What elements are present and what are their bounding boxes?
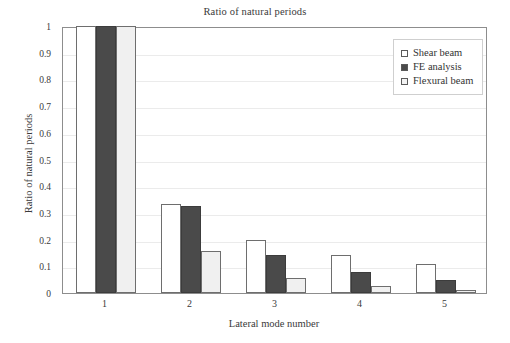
- bar-1-series-0: [76, 26, 96, 293]
- bar-3-series-1: [266, 255, 286, 293]
- y-axis-tick: 0.3: [39, 209, 51, 219]
- x-axis-tick: 3: [272, 298, 277, 309]
- bar-3-series-2: [286, 278, 306, 293]
- bar-5-series-1: [436, 280, 456, 293]
- legend-label: Flexural beam: [413, 74, 473, 88]
- bar-1-series-1: [96, 26, 116, 293]
- y-axis-tick: 0.4: [39, 182, 51, 192]
- legend-item-0: Shear beam: [401, 46, 473, 60]
- chart-legend: Shear beamFE analysisFlexural beam: [393, 39, 483, 95]
- y-axis-tick: 0.9: [39, 49, 51, 59]
- legend-item-2: Flexural beam: [401, 74, 473, 88]
- y-axis-tick: 0.8: [39, 75, 51, 85]
- filled-square-dark-icon: [401, 64, 408, 71]
- chart-container: Ratio of natural periods Ratio of natura…: [0, 0, 510, 343]
- x-axis-tick: 2: [187, 298, 192, 309]
- y-axis-tick: 0.1: [39, 262, 51, 272]
- x-axis-tick: 5: [442, 298, 447, 309]
- bar-5-series-0: [416, 264, 436, 293]
- bar-2-series-2: [201, 251, 221, 293]
- y-axis-tick: 1: [46, 22, 51, 32]
- bar-4-series-0: [331, 255, 351, 293]
- bar-4-series-2: [371, 286, 391, 293]
- open-square-light-icon: [401, 78, 408, 85]
- bar-2-series-0: [161, 204, 181, 293]
- x-axis-label: Lateral mode number: [60, 318, 488, 329]
- y-axis-tick-labels: 00.10.20.30.40.50.60.70.80.91: [0, 27, 57, 294]
- y-axis-tick: 0.6: [39, 129, 51, 139]
- x-axis-tick-labels: 12345: [62, 298, 487, 314]
- open-square-white-icon: [401, 50, 408, 57]
- bar-3-series-0: [246, 240, 266, 293]
- y-axis-tick: 0.2: [39, 236, 51, 246]
- x-axis-tick: 4: [357, 298, 362, 309]
- bar-5-series-2: [456, 290, 476, 293]
- bar-4-series-1: [351, 272, 371, 293]
- y-axis-tick: 0.5: [39, 156, 51, 166]
- bar-2-series-1: [181, 206, 201, 293]
- legend-item-1: FE analysis: [401, 60, 473, 74]
- bar-1-series-2: [116, 26, 136, 293]
- chart-title: Ratio of natural periods: [0, 6, 510, 17]
- legend-label: Shear beam: [413, 46, 462, 60]
- legend-label: FE analysis: [413, 60, 462, 74]
- y-axis-tick: 0.7: [39, 102, 51, 112]
- plot-area: Shear beamFE analysisFlexural beam: [62, 27, 487, 294]
- y-axis-tick: 0: [46, 289, 51, 299]
- x-axis-tick: 1: [102, 298, 107, 309]
